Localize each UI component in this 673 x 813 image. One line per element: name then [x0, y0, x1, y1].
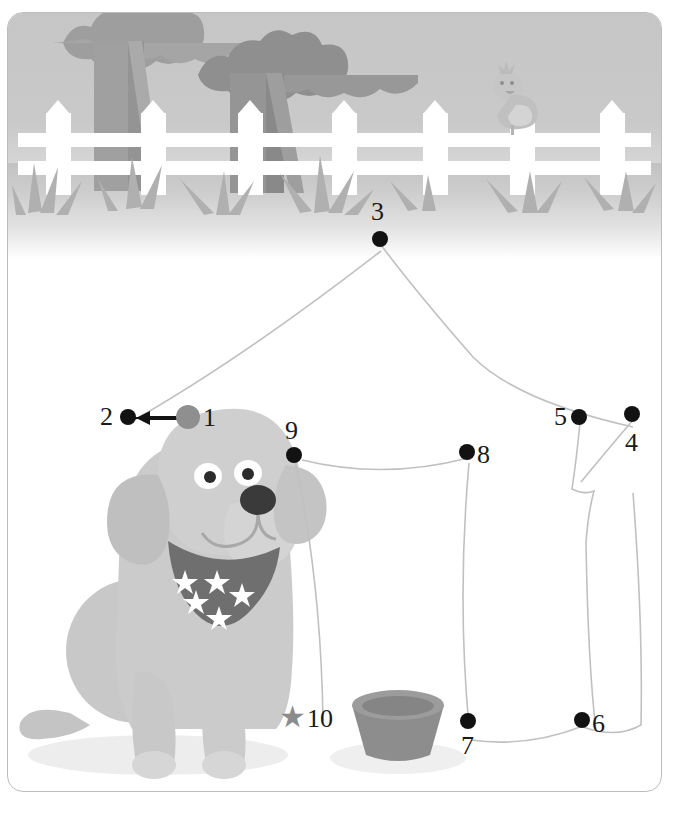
worksheet-frame: 123456789★10 — [7, 12, 662, 792]
puzzle-dot-label-6: 6 — [592, 711, 605, 737]
puzzle-star-marker[interactable]: ★ — [279, 702, 306, 732]
puzzle-dot-label-10: 10 — [307, 706, 333, 732]
puzzle-dot-3[interactable] — [372, 231, 388, 247]
puzzle-dot-2[interactable] — [120, 409, 136, 425]
puzzle-dot-5[interactable] — [571, 409, 587, 425]
puzzle-dot-label-2: 2 — [100, 404, 113, 430]
puzzle-dot-label-5: 5 — [554, 404, 567, 430]
worksheet-page: 123456789★10 — [0, 0, 673, 813]
puzzle-dot-label-1: 1 — [203, 405, 216, 431]
puzzle-dot-4[interactable] — [624, 406, 640, 422]
puzzle-dot-7[interactable] — [460, 713, 476, 729]
puzzle-dot-6[interactable] — [574, 712, 590, 728]
puzzle-dot-label-3: 3 — [371, 199, 384, 225]
puzzle-dot-label-9: 9 — [285, 418, 298, 444]
puzzle-dot-label-8: 8 — [477, 442, 490, 468]
puzzle-dot-label-7: 7 — [461, 733, 474, 759]
puzzle-dot-9[interactable] — [286, 447, 302, 463]
puzzle-dot-1[interactable] — [176, 405, 200, 429]
puzzle-dot-label-4: 4 — [625, 430, 638, 456]
puzzle-dot-8[interactable] — [459, 444, 475, 460]
